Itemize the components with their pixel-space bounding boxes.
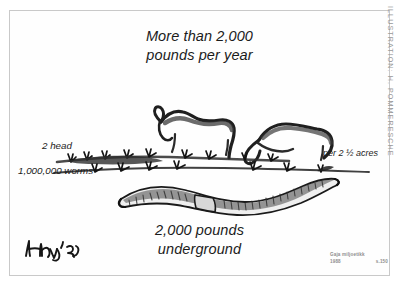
title-line-2: pounds per year bbox=[146, 47, 252, 63]
earthworm bbox=[119, 179, 339, 215]
label-million-worms: 1,000,000 worms bbox=[18, 165, 93, 176]
cattle-scene bbox=[54, 107, 369, 173]
illustration-page: More than 2,000pounds per year 2 head 1,… bbox=[0, 0, 419, 288]
label-two-head: 2 head bbox=[42, 140, 72, 151]
source-title: Gaja miljoetikk bbox=[330, 251, 388, 258]
label-per-acres: per 2 ½ acres bbox=[323, 148, 378, 158]
cow-left-leg-rear bbox=[226, 140, 228, 155]
cow-right-neck bbox=[258, 143, 293, 151]
page-title: More than 2,000pounds per year bbox=[9, 27, 390, 65]
illustration-credit: ILLUSTRATION: H. POMMERESCHE bbox=[386, 6, 395, 176]
title-line-1: More than 2,000 bbox=[146, 28, 253, 44]
worm-dorsal-shading bbox=[123, 180, 334, 210]
caption-line-2: underground bbox=[158, 241, 241, 257]
source-citation: Gaja miljoetikk 1988 s.150 bbox=[330, 251, 388, 265]
caption-line-1: 2,000 pounds bbox=[155, 222, 244, 238]
cow-left-head bbox=[154, 107, 163, 122]
cow-left-leg-front bbox=[172, 134, 175, 152]
source-page: s.150 bbox=[376, 258, 388, 265]
source-year: 1988 bbox=[330, 258, 341, 265]
